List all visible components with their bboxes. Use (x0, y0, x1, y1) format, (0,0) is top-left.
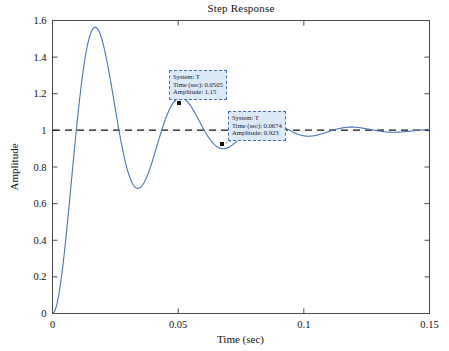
datatip-peak-amplitude: Amplitude: 1.15 (173, 88, 223, 96)
datatip-trough-marker[interactable] (220, 142, 224, 146)
y-tick-label: 0.2 (33, 271, 46, 282)
x-axis-ticks (53, 21, 430, 314)
x-tick-label: 0.1 (297, 319, 310, 330)
x-tick-label: 0.05 (169, 319, 187, 330)
datatip-trough-time: Time (sec): 0.0674 (232, 122, 282, 130)
y-tick-label: 1.2 (33, 88, 46, 99)
y-tick-label: 1.6 (33, 15, 46, 26)
y-tick-label: 0.6 (33, 198, 46, 209)
datatip-peak-time: Time (sec): 0.0505 (173, 81, 223, 89)
datatip-trough-system: System: T (232, 114, 282, 122)
y-axis-ticks (53, 21, 430, 314)
y-tick-label: 0.4 (33, 235, 47, 246)
plot-frame (53, 21, 430, 314)
y-tick-label: 1 (41, 125, 46, 136)
y-axis-title: Amplitude (8, 143, 20, 190)
figure-step-response: Step Response 00.20.40.60.811.21.41.600.… (0, 0, 449, 351)
datatip-peak-marker[interactable] (177, 101, 181, 105)
step-response-curve (53, 27, 430, 313)
x-tick-label: 0.15 (420, 319, 438, 330)
y-tick-label: 0 (41, 308, 46, 319)
x-tick-label: 0 (50, 319, 55, 330)
datatip-peak-system: System: T (173, 73, 223, 81)
axis-tick-labels: 00.20.40.60.811.21.41.600.050.10.15 (33, 15, 438, 329)
x-axis-title: Time (sec) (217, 333, 264, 346)
y-tick-label: 1.4 (33, 52, 47, 63)
y-tick-label: 0.8 (33, 162, 46, 173)
datatip-peak[interactable]: System: T Time (sec): 0.0505 Amplitude: … (169, 70, 227, 100)
datatip-trough-amplitude: Amplitude: 0.923 (232, 129, 282, 137)
datatip-trough[interactable]: System: T Time (sec): 0.0674 Amplitude: … (228, 111, 286, 141)
plot-canvas[interactable]: 00.20.40.60.811.21.41.600.050.10.15 Time… (0, 0, 449, 351)
